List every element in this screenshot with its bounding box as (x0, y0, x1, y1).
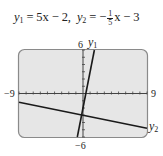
xmax-label: 9 (151, 88, 156, 99)
y2-curve-label: y2 (149, 119, 158, 134)
ymax-label: 6 (78, 39, 83, 50)
y1-curve-label: y1 (88, 35, 97, 50)
ymin-label: −6 (75, 140, 86, 151)
xmin-label: −9 (4, 88, 15, 99)
graph-canvas (0, 0, 163, 156)
